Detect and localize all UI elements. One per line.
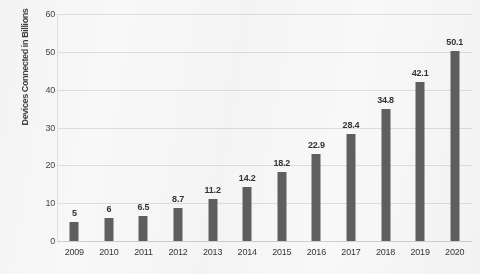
bar[interactable] xyxy=(208,199,217,241)
bar-value-label: 34.8 xyxy=(377,95,394,105)
bar-chart: Devices Connected in Billions 0102030405… xyxy=(0,0,480,274)
y-axis-title: Devices Connected in Billions xyxy=(20,0,30,136)
bar-slot: 18.22015 xyxy=(265,14,300,241)
x-axis-tick-label: 2012 xyxy=(168,247,187,257)
bar-value-label: 14.2 xyxy=(239,173,256,183)
x-axis-tick-label: 2015 xyxy=(272,247,291,257)
bar[interactable] xyxy=(243,187,252,241)
y-axis-tick-label: 40 xyxy=(33,85,55,95)
bar[interactable] xyxy=(104,218,113,241)
bar[interactable] xyxy=(381,109,390,241)
x-axis-tick-label: 2010 xyxy=(99,247,118,257)
bar-value-label: 6.5 xyxy=(137,202,149,212)
bar[interactable] xyxy=(450,51,459,241)
y-axis-tick-label: 30 xyxy=(33,123,55,133)
bar-slot: 22.92016 xyxy=(299,14,334,241)
bar-slot: 8.72012 xyxy=(161,14,196,241)
bar-slot: 42.12019 xyxy=(403,14,438,241)
bar[interactable] xyxy=(70,222,79,241)
x-axis-tick-label: 2013 xyxy=(203,247,222,257)
bar-slot: 50.12020 xyxy=(437,14,472,241)
bar-slot: 28.42017 xyxy=(334,14,369,241)
bar[interactable] xyxy=(416,82,425,241)
bar-value-label: 50.1 xyxy=(446,37,463,47)
x-axis-tick-label: 2017 xyxy=(341,247,360,257)
bar[interactable] xyxy=(139,216,148,241)
bar-slot: 11.22013 xyxy=(195,14,230,241)
x-axis-tick-label: 2009 xyxy=(65,247,84,257)
bar[interactable] xyxy=(312,154,321,241)
gridline xyxy=(57,241,472,242)
bar-value-label: 28.4 xyxy=(343,120,360,130)
bar-slot: 52009 xyxy=(57,14,92,241)
bar-slot: 34.82018 xyxy=(368,14,403,241)
bar-slot: 14.22014 xyxy=(230,14,265,241)
bar-slot: 6.52011 xyxy=(126,14,161,241)
y-axis-tick-label: 10 xyxy=(33,198,55,208)
bar-value-label: 18.2 xyxy=(273,158,290,168)
bar[interactable] xyxy=(346,134,355,241)
x-axis-tick-label: 2014 xyxy=(238,247,257,257)
y-axis-tick-label: 0 xyxy=(33,236,55,246)
bar-value-label: 8.7 xyxy=(172,194,184,204)
x-axis-tick-label: 2016 xyxy=(307,247,326,257)
bar-value-label: 22.9 xyxy=(308,140,325,150)
x-axis-tick-label: 2018 xyxy=(376,247,395,257)
bar-value-label: 42.1 xyxy=(412,68,429,78)
x-axis-tick-label: 2020 xyxy=(445,247,464,257)
x-axis-tick-label: 2011 xyxy=(134,247,153,257)
y-axis-tick-label: 20 xyxy=(33,160,55,170)
bar[interactable] xyxy=(277,172,286,241)
bar-value-label: 5 xyxy=(72,208,77,218)
x-axis-tick-label: 2019 xyxy=(410,247,429,257)
y-axis-tick-label: 60 xyxy=(33,9,55,19)
bar-slot: 62010 xyxy=(92,14,127,241)
bar-value-label: 11.2 xyxy=(204,185,220,195)
y-axis-tick-label: 50 xyxy=(33,47,55,57)
plot-area: 52009620106.520118.7201211.2201314.22014… xyxy=(57,14,472,241)
bar-value-label: 6 xyxy=(106,204,111,214)
bar[interactable] xyxy=(174,208,183,241)
